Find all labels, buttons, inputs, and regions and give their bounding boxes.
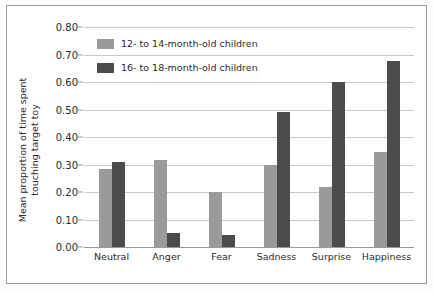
x-axis-tick-label: Happiness xyxy=(362,251,411,262)
bar-group-bars xyxy=(359,27,414,247)
legend-item-label: 16- to 18-month-old children xyxy=(121,62,258,73)
bar-group: Surprise xyxy=(304,27,359,247)
bar[interactable] xyxy=(209,192,222,247)
legend-item[interactable]: 12- to 14-month-old children xyxy=(97,38,258,49)
y-axis-tick-label: 0.00 xyxy=(56,242,78,253)
y-axis-tick-mark xyxy=(78,247,83,248)
y-axis-tick-mark xyxy=(78,164,83,165)
y-axis-tick-label: 0.10 xyxy=(56,214,78,225)
bar-group: Happiness xyxy=(359,27,414,247)
bar[interactable] xyxy=(112,162,125,247)
y-axis-tick-label: 0.60 xyxy=(56,77,78,88)
bar[interactable] xyxy=(387,61,400,247)
y-axis-tick-mark xyxy=(78,192,83,193)
legend-swatch-icon xyxy=(97,63,114,73)
bar[interactable] xyxy=(99,169,112,247)
y-axis-tick-label: 0.30 xyxy=(56,159,78,170)
gridline xyxy=(84,247,414,248)
x-axis-tick-label: Neutral xyxy=(94,251,129,262)
y-axis-tick-label: 0.50 xyxy=(56,104,78,115)
y-axis-tick-mark xyxy=(78,54,83,55)
y-axis-tick-label: 0.20 xyxy=(56,187,78,198)
legend-item[interactable]: 16- to 18-month-old children xyxy=(97,62,258,73)
y-axis-tick-label: 0.80 xyxy=(56,22,78,33)
y-axis-tick-mark xyxy=(78,219,83,220)
x-axis-tick-label: Sadness xyxy=(257,251,297,262)
y-axis-tick-mark xyxy=(78,27,83,28)
y-axis-tick-label: 0.70 xyxy=(56,49,78,60)
x-axis-tick-label: Surprise xyxy=(312,251,351,262)
y-axis-title-line-1: Mean proportion of time spent xyxy=(17,78,29,223)
chart-figure: Mean proportion of time spent touching t… xyxy=(0,0,434,292)
bar[interactable] xyxy=(319,187,332,248)
y-axis-tick-label: 0.40 xyxy=(56,132,78,143)
x-axis-tick-label: Fear xyxy=(211,251,232,262)
y-axis-title: Mean proportion of time spent touching t… xyxy=(12,60,46,240)
legend-item-label: 12- to 14-month-old children xyxy=(121,38,258,49)
bar[interactable] xyxy=(167,233,180,247)
legend-swatch-icon xyxy=(97,39,114,49)
x-axis-tick-label: Anger xyxy=(152,251,180,262)
bar[interactable] xyxy=(264,165,277,248)
y-axis-tick-mark xyxy=(78,109,83,110)
y-axis-title-line-2: touching target toy xyxy=(29,78,41,223)
bar[interactable] xyxy=(332,82,345,247)
bar[interactable] xyxy=(374,152,387,247)
y-axis-tick-mark xyxy=(78,137,83,138)
chart-legend: 12- to 14-month-old children16- to 18-mo… xyxy=(97,38,258,73)
bar[interactable] xyxy=(222,235,235,247)
bar[interactable] xyxy=(154,160,167,247)
bar[interactable] xyxy=(277,112,290,247)
bar-group-bars xyxy=(304,27,359,247)
y-axis-tick-mark xyxy=(78,82,83,83)
